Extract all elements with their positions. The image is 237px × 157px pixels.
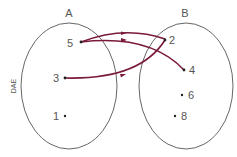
element-b-4: 4	[189, 64, 195, 76]
element-b-8: 8	[181, 110, 187, 122]
mapping-diagram: A B DAE 5 3 1 2 4 6 8	[0, 0, 237, 157]
set-a-elements: 5 3 1	[53, 37, 83, 122]
point-a-1	[64, 115, 66, 117]
element-b-6: 6	[188, 89, 194, 101]
point-a-5	[80, 41, 83, 44]
point-a-3	[64, 77, 67, 80]
arrowhead-icon	[120, 74, 126, 78]
point-b-4	[183, 69, 186, 72]
set-b-label: B	[181, 7, 188, 19]
mapping-arrows	[65, 32, 184, 79]
point-b-2	[164, 39, 167, 42]
side-label: DAE	[10, 78, 17, 93]
set-a-label: A	[65, 7, 73, 19]
element-a-1: 1	[53, 110, 59, 122]
point-b-8	[174, 115, 176, 117]
set-b: B	[139, 7, 233, 149]
element-b-2: 2	[169, 34, 175, 46]
element-a-5: 5	[67, 37, 73, 49]
set-b-ellipse	[139, 23, 233, 149]
set-b-elements: 2 4 6 8	[164, 34, 196, 122]
element-a-3: 3	[53, 72, 59, 84]
point-b-6	[181, 94, 183, 96]
